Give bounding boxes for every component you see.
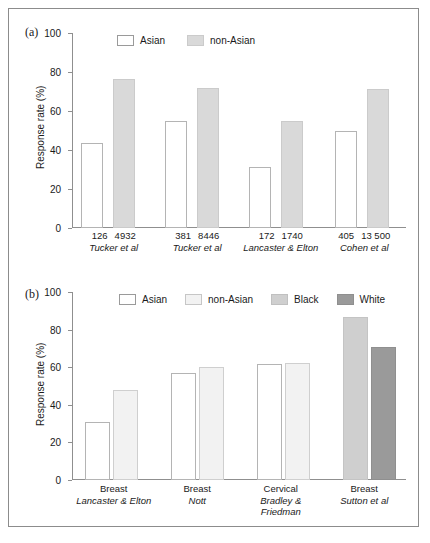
y-tick-60: 60 bbox=[68, 111, 72, 112]
y-tick-label: 100 bbox=[44, 28, 61, 39]
y-tick-0: 0 bbox=[68, 480, 72, 481]
category-study: Tucker et al bbox=[156, 242, 240, 254]
bar-a-g1-asian bbox=[81, 143, 103, 228]
y-tick-80: 80 bbox=[68, 330, 72, 331]
category-site: Breast bbox=[72, 483, 156, 495]
panel-b-label: (b) bbox=[25, 287, 39, 302]
category-group: 40513 500 Cohen et al bbox=[323, 230, 407, 253]
count-asian: 126 bbox=[92, 230, 108, 242]
y-tick-label: 40 bbox=[50, 145, 61, 156]
y-tick-100: 100 bbox=[68, 292, 72, 293]
category-group: Breast Sutton et al bbox=[323, 483, 407, 518]
category-group: Cervical Bradley & Friedman bbox=[239, 483, 323, 518]
count-asian: 172 bbox=[259, 230, 275, 242]
category-site: Cervical bbox=[239, 483, 323, 495]
category-counts: 1264932 bbox=[72, 230, 156, 242]
category-study: Lancaster & Elton bbox=[239, 242, 323, 254]
y-tick-label: 80 bbox=[50, 324, 61, 335]
y-tick-80: 80 bbox=[68, 72, 72, 73]
panel-a-y-axis bbox=[72, 33, 73, 228]
bar-b-g4-white bbox=[371, 347, 396, 480]
bar-a-g2-asian bbox=[165, 121, 187, 228]
bar-a-g2-non-asian bbox=[197, 88, 219, 228]
category-study: Bradley & Friedman bbox=[239, 495, 323, 518]
category-study: Lancaster & Elton bbox=[72, 495, 156, 507]
y-tick-label: 60 bbox=[50, 362, 61, 373]
y-tick-40: 40 bbox=[68, 150, 72, 151]
y-tick-label: 40 bbox=[50, 399, 61, 410]
panel-b-y-axis-label: Response rate (%) bbox=[35, 343, 46, 426]
y-tick-label: 0 bbox=[55, 475, 61, 486]
panel-a-y-axis-label: Response rate (%) bbox=[35, 86, 46, 169]
bar-b-g4-black bbox=[343, 317, 368, 480]
category-counts: 40513 500 bbox=[323, 230, 407, 242]
bar-b-g1-asian bbox=[85, 422, 110, 480]
bar-b-g2-non-asian bbox=[199, 367, 224, 480]
category-study: Nott bbox=[156, 495, 240, 507]
y-tick-label: 20 bbox=[50, 184, 61, 195]
category-site: Breast bbox=[323, 483, 407, 495]
category-group: Breast Nott bbox=[156, 483, 240, 518]
y-tick-label: 100 bbox=[44, 287, 61, 298]
y-tick-label: 60 bbox=[50, 106, 61, 117]
y-tick-label: 0 bbox=[55, 223, 61, 234]
panel-a-label: (a) bbox=[25, 25, 38, 40]
category-counts: 1721740 bbox=[239, 230, 323, 242]
panel-b-category-labels: Breast Lancaster & Elton Breast Nott Cer… bbox=[72, 483, 406, 518]
category-site: Breast bbox=[156, 483, 240, 495]
y-tick-20: 20 bbox=[68, 189, 72, 190]
y-tick-60: 60 bbox=[68, 367, 72, 368]
y-tick-label: 80 bbox=[50, 67, 61, 78]
count-asian: 405 bbox=[338, 230, 354, 242]
panel-a-plot-area: 100 80 60 40 20 0 bbox=[72, 33, 406, 228]
category-group: 1721740 Lancaster & Elton bbox=[239, 230, 323, 253]
category-counts: 3818446 bbox=[156, 230, 240, 242]
bar-b-g3-asian bbox=[257, 364, 282, 480]
panel-b-plot-area: 100 80 60 40 20 0 bbox=[72, 292, 406, 480]
category-group: 3818446 Tucker et al bbox=[156, 230, 240, 253]
y-tick-20: 20 bbox=[68, 442, 72, 443]
y-tick-40: 40 bbox=[68, 405, 72, 406]
y-tick-0: 0 bbox=[68, 228, 72, 229]
panel-b: (b) Response rate (%) Asian non-Asian Bl… bbox=[9, 271, 420, 527]
category-group: 1264932 Tucker et al bbox=[72, 230, 156, 253]
panel-a: (a) Response rate (%) Asian non-Asian 10… bbox=[9, 9, 420, 271]
bar-a-g3-asian bbox=[249, 167, 271, 228]
figure-frame: (a) Response rate (%) Asian non-Asian 10… bbox=[8, 8, 419, 527]
panel-a-category-labels: 1264932 Tucker et al 3818446 Tucker et a… bbox=[72, 230, 406, 253]
bar-a-g4-non-asian bbox=[367, 89, 389, 228]
bar-b-g2-asian bbox=[171, 373, 196, 480]
count-non-asian: 8446 bbox=[198, 230, 219, 242]
category-study: Cohen et al bbox=[323, 242, 407, 254]
count-non-asian: 13 500 bbox=[361, 230, 390, 242]
bar-a-g3-non-asian bbox=[281, 121, 303, 228]
category-group: Breast Lancaster & Elton bbox=[72, 483, 156, 518]
category-study: Sutton et al bbox=[323, 495, 407, 507]
bar-b-g1-non-asian bbox=[113, 390, 138, 480]
y-tick-100: 100 bbox=[68, 33, 72, 34]
bar-b-g3-non-asian bbox=[285, 363, 310, 480]
y-tick-label: 20 bbox=[50, 437, 61, 448]
count-non-asian: 4932 bbox=[115, 230, 136, 242]
category-study: Tucker et al bbox=[72, 242, 156, 254]
panel-b-y-axis bbox=[72, 292, 73, 480]
bar-a-g4-asian bbox=[335, 131, 357, 228]
bar-a-g1-non-asian bbox=[113, 79, 135, 228]
figure-root: (a) Response rate (%) Asian non-Asian 10… bbox=[0, 0, 430, 543]
count-non-asian: 1740 bbox=[282, 230, 303, 242]
count-asian: 381 bbox=[175, 230, 191, 242]
